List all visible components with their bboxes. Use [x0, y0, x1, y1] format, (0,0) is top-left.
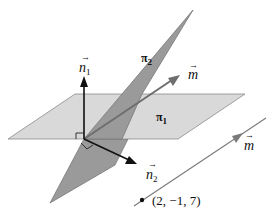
pi2-label-main: π [141, 51, 148, 65]
planes-intersection-diagram: → n1 π2 → m π1 → m → n2 (2, −1, 7) [0, 0, 273, 221]
point-dot [140, 198, 144, 202]
m-plane-label: m [188, 68, 198, 82]
line-m-arrowhead-icon [232, 133, 243, 143]
pi1-label: π1 [156, 111, 167, 126]
m-arrowhead-icon [168, 75, 180, 86]
m-line-label: m [244, 139, 254, 153]
plane-pi2-lower [50, 139, 128, 203]
n1-label-sub: 1 [86, 67, 91, 77]
n2-label: n2 [146, 168, 158, 184]
pi1-label-main: π [156, 110, 163, 124]
n1-label: n1 [79, 61, 91, 77]
n2-label-sub: 2 [153, 174, 158, 184]
n1-label-main: n [79, 60, 86, 75]
n2-label-main: n [146, 167, 153, 182]
diagram-graphics [0, 0, 273, 221]
pi2-label: π2 [141, 52, 152, 67]
point-coordinates-label: (2, −1, 7) [152, 194, 201, 207]
pi2-label-sub: 2 [148, 57, 153, 67]
n2-arrowhead-icon [125, 156, 137, 164]
n1-arrowhead-icon [80, 76, 88, 87]
pi1-label-sub: 1 [163, 116, 168, 126]
